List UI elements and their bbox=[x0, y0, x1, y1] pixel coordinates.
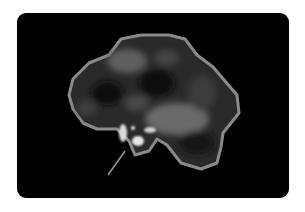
scan-panel bbox=[17, 13, 289, 198]
pointer-line bbox=[108, 151, 125, 175]
brain-scan-image bbox=[17, 13, 289, 198]
